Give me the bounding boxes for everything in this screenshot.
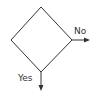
yes-arrow-head-icon [39, 85, 44, 91]
decision-diagram [0, 0, 98, 94]
no-branch-label: No [74, 27, 86, 36]
no-arrow-head-icon [84, 38, 90, 43]
decision-diamond [11, 7, 72, 72]
yes-branch-label: Yes [18, 74, 33, 83]
